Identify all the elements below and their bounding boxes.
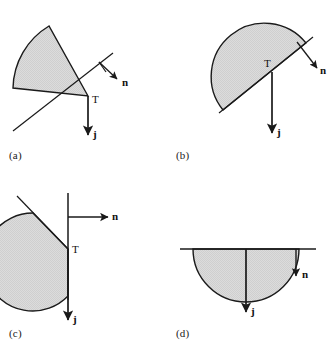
panel-b-group: [211, 23, 317, 133]
panel-b-caption: (b): [176, 149, 189, 161]
panel-c-current-label: j: [73, 313, 77, 325]
panel-a-caption: (a): [9, 149, 22, 161]
panel-b-point-label: T: [264, 57, 271, 69]
panel-d-current-label: j: [251, 305, 255, 317]
panel-a-group: [13, 26, 117, 135]
panel-b-shaded-region: [211, 23, 306, 110]
figure-root: T n j (a) T n j (b) T n j (c) n j (d): [0, 0, 333, 355]
panel-a-normal-label: n: [122, 76, 128, 88]
panel-c-normal-label: n: [112, 210, 118, 222]
panel-a-normal-arrow: [99, 62, 117, 79]
panel-c-caption: (c): [9, 327, 22, 339]
panel-d-group: [180, 249, 316, 312]
panel-b-normal-arrow: [297, 42, 317, 68]
panel-c-point-label: T: [72, 243, 79, 255]
figure-drawing-canvas: [0, 0, 333, 355]
panel-c-shaded-region: [0, 213, 68, 311]
panel-a-point-label: T: [92, 93, 99, 105]
panel-a-current-label: j: [93, 128, 97, 140]
panel-d-caption: (d): [176, 327, 189, 339]
panel-d-normal-label: n: [302, 268, 308, 280]
panel-a-shaded-region: [13, 26, 88, 96]
panel-b-current-label: j: [277, 126, 281, 138]
panel-c-group: [0, 193, 108, 320]
panel-b-normal-label: n: [320, 64, 326, 76]
